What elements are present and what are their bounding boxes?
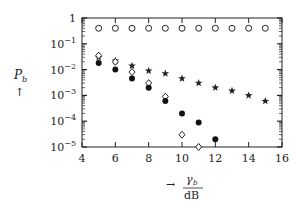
data-point <box>112 58 118 65</box>
x-tick-label: 8 <box>145 152 152 165</box>
series-open-circle <box>96 25 269 31</box>
data-point <box>145 67 153 74</box>
data-point <box>178 75 186 82</box>
data-point <box>179 131 185 138</box>
data-point <box>212 136 218 142</box>
x-tick-label: 10 <box>175 152 189 165</box>
x-axis-symbol: γ <box>186 173 193 186</box>
data-point <box>228 87 236 94</box>
x-tick-label: 12 <box>208 152 222 165</box>
plot-frame <box>82 18 282 147</box>
data-point <box>196 119 202 125</box>
x-axis-subscript: b <box>193 179 198 187</box>
y-axis-label: P b ↑ <box>13 68 27 99</box>
y-tick-label: 1 <box>69 12 76 25</box>
data-point <box>129 25 135 31</box>
data-point <box>162 98 168 104</box>
series-star <box>95 53 269 104</box>
data-point <box>262 25 268 31</box>
y-tick-label: 10−1 <box>50 36 76 51</box>
x-axis-label: → γ b dB <box>166 173 203 202</box>
x-axis-ticks: 46810121416 <box>79 18 290 165</box>
data-point <box>196 25 202 31</box>
data-point <box>112 67 118 73</box>
y-tick-label: 10−4 <box>50 113 76 128</box>
x-axis-unit: dB <box>184 189 199 202</box>
data-point <box>179 110 185 116</box>
y-axis-ticks: 110−110−210−310−410−5 <box>50 12 282 154</box>
series-filled-circle <box>96 60 219 142</box>
ber-chart: 46810121416 110−110−210−310−410−5 P b ↑ … <box>0 0 296 209</box>
data-point <box>212 84 220 91</box>
data-point <box>96 52 102 59</box>
data-point <box>146 25 152 31</box>
x-tick-label: 4 <box>79 152 86 165</box>
data-point <box>179 25 185 31</box>
x-tick-label: 14 <box>242 152 256 165</box>
data-point <box>112 25 118 31</box>
x-tick-label: 16 <box>275 152 289 165</box>
data-point <box>162 70 170 77</box>
data-point <box>196 144 202 151</box>
data-point <box>212 25 218 31</box>
data-point <box>162 25 168 31</box>
data-point <box>129 69 135 76</box>
data-point <box>146 85 152 91</box>
data-series <box>95 25 269 150</box>
y-axis-subscript: b <box>22 75 27 84</box>
data-point <box>245 91 253 98</box>
data-point <box>96 60 102 66</box>
y-tick-label: 10−5 <box>50 139 76 154</box>
data-point <box>262 97 270 104</box>
y-tick-label: 10−3 <box>50 87 76 102</box>
y-axis-arrow: ↑ <box>15 86 24 99</box>
data-point <box>195 79 203 86</box>
x-tick-label: 6 <box>112 152 119 165</box>
data-point <box>246 25 252 31</box>
data-point <box>229 25 235 31</box>
y-tick-label: 10−2 <box>50 62 76 77</box>
x-axis-arrow: → <box>166 178 175 191</box>
data-point <box>96 25 102 31</box>
data-point <box>129 76 135 82</box>
